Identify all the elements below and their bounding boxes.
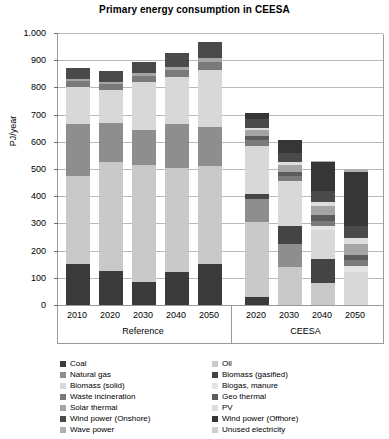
bar-stack[interactable] <box>132 62 156 305</box>
bar-segment[interactable] <box>311 191 335 202</box>
bar-stack[interactable] <box>245 113 269 305</box>
bar-segment[interactable] <box>245 119 269 129</box>
bar-segment[interactable] <box>165 77 189 125</box>
bar-segment[interactable] <box>245 130 269 137</box>
legend-swatch-icon <box>212 372 218 378</box>
bar-segment[interactable] <box>344 272 368 305</box>
bar-stack[interactable] <box>344 169 368 305</box>
bar-segment[interactable] <box>245 199 269 222</box>
y-tick-mark <box>54 251 58 252</box>
x-axis: 201020202030204020502020203020402050Refe… <box>57 306 384 344</box>
bar-segment[interactable] <box>66 87 90 124</box>
y-tick-mark <box>54 223 58 224</box>
legend-label: Biomass (solid) <box>70 381 125 390</box>
bar-segment[interactable] <box>198 70 222 127</box>
y-tick-label: 100 <box>0 274 46 283</box>
legend-swatch-icon <box>212 394 218 400</box>
bar-segment[interactable] <box>278 181 302 226</box>
legend-swatch-icon <box>60 383 66 389</box>
bar-stack[interactable] <box>66 68 90 305</box>
bar-segment[interactable] <box>245 146 269 194</box>
bar-stack[interactable] <box>278 140 302 305</box>
bar-segment[interactable] <box>278 244 302 267</box>
bar-segment[interactable] <box>99 123 123 162</box>
bar-segment[interactable] <box>311 230 335 259</box>
bar-segment[interactable] <box>66 68 90 79</box>
bar-segment[interactable] <box>66 124 90 176</box>
legend-label: Coal <box>70 359 86 368</box>
legend-swatch-icon <box>60 427 66 433</box>
bar-segment[interactable] <box>132 130 156 165</box>
y-tick-mark <box>54 169 58 170</box>
bar-segment[interactable] <box>165 53 189 67</box>
legend-swatch-icon <box>212 361 218 367</box>
bar-segment[interactable] <box>66 81 90 88</box>
legend-item[interactable]: Wave power <box>60 424 210 435</box>
legend-item[interactable]: Unused electricity <box>212 424 362 435</box>
bar-segment[interactable] <box>198 42 222 58</box>
bar-segment[interactable] <box>311 259 335 283</box>
bar-segment[interactable] <box>99 271 123 305</box>
legend-label: Wave power <box>70 425 114 434</box>
legend-swatch-icon <box>60 361 66 367</box>
legend-item[interactable]: Biomass (gasified) <box>212 369 362 380</box>
bar-segment[interactable] <box>198 127 222 166</box>
bar-segment[interactable] <box>198 166 222 264</box>
bar-stack[interactable] <box>311 161 335 305</box>
bar-stack[interactable] <box>198 42 222 305</box>
bar-segment[interactable] <box>278 140 302 152</box>
bar-segment[interactable] <box>278 165 302 172</box>
bar-segment[interactable] <box>278 267 302 305</box>
gridline <box>58 33 383 34</box>
legend-item[interactable]: Waste incineration <box>60 391 210 402</box>
y-tick-mark <box>54 33 58 34</box>
bar-segment[interactable] <box>132 165 156 282</box>
legend-swatch-icon <box>212 416 218 422</box>
bar-segment[interactable] <box>245 222 269 297</box>
legend-item[interactable]: PV <box>212 402 362 413</box>
bar-segment[interactable] <box>278 153 302 163</box>
legend-column-left: CoalNatural gasBiomass (solid)Waste inci… <box>60 358 210 435</box>
legend-item[interactable]: Biomass (solid) <box>60 380 210 391</box>
bar-stack[interactable] <box>165 53 189 305</box>
x-group-label: CEESA <box>266 326 346 336</box>
bar-segment[interactable] <box>132 62 156 73</box>
legend-item[interactable]: Oil <box>212 358 362 369</box>
bar-segment[interactable] <box>278 226 302 244</box>
bar-segment[interactable] <box>344 266 368 273</box>
bar-segment[interactable] <box>245 297 269 305</box>
bar-segment[interactable] <box>165 272 189 305</box>
legend-label: Unused electricity <box>222 425 285 434</box>
bar-segment[interactable] <box>198 62 222 70</box>
bar-segment[interactable] <box>344 226 368 238</box>
bar-segment[interactable] <box>311 283 335 305</box>
bar-segment[interactable] <box>198 264 222 305</box>
legend-item[interactable]: Biogas, manure <box>212 380 362 391</box>
bar-segment[interactable] <box>132 82 156 130</box>
bar-segment[interactable] <box>66 176 90 264</box>
legend-item[interactable]: Solar thermal <box>60 402 210 413</box>
bar-segment[interactable] <box>99 71 123 82</box>
bar-segment[interactable] <box>165 168 189 273</box>
legend-label: Solar thermal <box>70 403 118 412</box>
bar-segment[interactable] <box>311 206 335 216</box>
x-tick-label: 2050 <box>335 310 375 320</box>
bar-segment[interactable] <box>99 162 123 271</box>
legend-swatch-icon <box>212 427 218 433</box>
legend-item[interactable]: Natural gas <box>60 369 210 380</box>
bar-segment[interactable] <box>165 124 189 168</box>
bar-segment[interactable] <box>344 172 368 226</box>
legend-label: Oil <box>222 359 232 368</box>
legend-item[interactable]: Wind power (Onshore) <box>60 413 210 424</box>
bar-segment[interactable] <box>311 162 335 191</box>
legend-item[interactable]: Wind power (Offhore) <box>212 413 362 424</box>
bar-segment[interactable] <box>66 264 90 305</box>
y-tick-mark <box>54 87 58 88</box>
bar-segment[interactable] <box>344 244 368 255</box>
bar-stack[interactable] <box>99 71 123 305</box>
legend-item[interactable]: Geo thermal <box>212 391 362 402</box>
legend-item[interactable]: Coal <box>60 358 210 369</box>
bar-segment[interactable] <box>132 282 156 305</box>
bar-segment[interactable] <box>99 90 123 123</box>
bar-segment[interactable] <box>165 70 189 77</box>
